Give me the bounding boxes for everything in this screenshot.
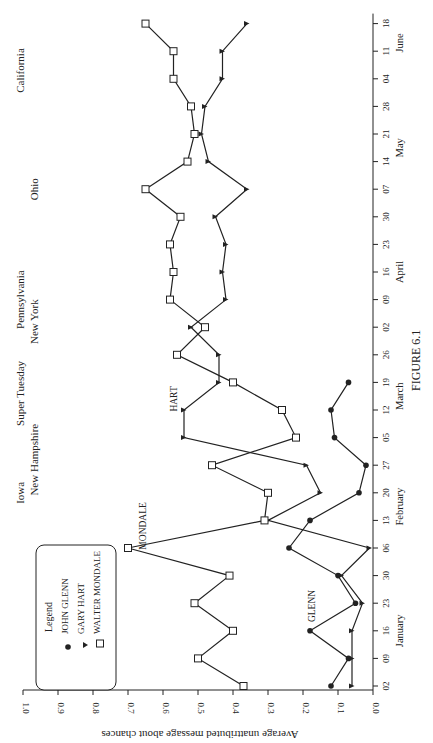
glenn-marker: [356, 490, 362, 496]
month-label: January: [394, 614, 405, 647]
value-tick-label: 0.4: [231, 702, 241, 714]
mondale-marker: [184, 158, 191, 165]
mondale-marker: [167, 241, 174, 248]
mondale-marker: [293, 434, 300, 441]
value-tick-label: 0.7: [126, 702, 136, 714]
value-tick-label: 0.9: [56, 702, 66, 714]
value-tick-label: 0.1: [336, 702, 346, 713]
event-label-iowa: Iowa: [14, 482, 26, 504]
legend-title: Legend: [43, 602, 54, 632]
annotation-glenn: GLENN: [307, 590, 317, 622]
hart-marker: [304, 463, 310, 468]
mondale-marker: [191, 600, 198, 607]
mondale-marker: [125, 545, 132, 552]
mondale-marker: [226, 572, 233, 579]
date-tick-label: 21: [381, 130, 391, 139]
date-tick-label: 12: [381, 406, 391, 415]
figure-caption-text: FIGURE 6.1: [409, 330, 423, 391]
date-tick-label: 27: [381, 460, 391, 470]
hart-marker: [244, 21, 250, 26]
date-tick-label: 20: [381, 488, 391, 498]
date-tick-label: 04: [381, 74, 391, 84]
mondale-marker: [191, 131, 198, 138]
event-label-super-tuesday: Super Tuesday: [14, 360, 26, 426]
hart-marker: [244, 187, 250, 192]
date-tick-label: 02: [381, 323, 391, 332]
date-tick-label: 30: [381, 212, 391, 222]
series-line-john-glenn: [289, 382, 366, 686]
series-line-walter-mondale: [128, 24, 296, 686]
series-line-gary-hart: [184, 24, 370, 686]
glenn-marker: [346, 380, 352, 386]
mondale-marker: [202, 324, 209, 331]
line-chart: 0209162330061320270512192602091623300714…: [0, 0, 433, 743]
date-tick-label: 05: [381, 433, 391, 443]
mondale-marker: [170, 75, 177, 82]
hart-marker: [367, 546, 373, 551]
date-tick-label: 23: [381, 239, 391, 249]
glenn-marker: [353, 600, 359, 606]
mondale-marker: [279, 407, 286, 414]
mondale-marker: [265, 489, 272, 496]
mondale-marker: [167, 296, 174, 303]
event-label-new-hampshire: New Hampshire: [28, 424, 40, 496]
mondale-marker: [174, 351, 181, 358]
month-label: June: [394, 33, 405, 53]
event-label-new-york: New York: [28, 299, 40, 344]
month-label: April: [394, 261, 405, 283]
value-tick-label: 0.6: [161, 702, 171, 714]
date-tick-label: 16: [381, 267, 391, 277]
mondale-marker: [142, 20, 149, 27]
mondale-marker: [240, 683, 247, 690]
mondale-marker: [261, 517, 268, 524]
glenn-marker: [307, 628, 313, 634]
mondale-marker: [195, 655, 202, 662]
legend-entry-gary-hart: GARY HART: [76, 583, 86, 634]
date-tick-label: 11: [381, 47, 391, 56]
mondale-marker: [170, 269, 177, 276]
glenn-marker: [307, 518, 313, 524]
event-label-california: California: [14, 48, 26, 93]
date-tick-label: 07: [381, 184, 391, 194]
value-tick-label: 0.5: [196, 702, 206, 714]
mondale-marker: [170, 48, 177, 55]
value-tick-label: 0.2: [301, 702, 311, 713]
chart-figure: 0209162330061320270512192602091623300714…: [0, 0, 433, 743]
legend-glenn-icon: [65, 644, 71, 650]
value-tick-label: 0.8: [91, 702, 101, 714]
month-label: March: [394, 382, 405, 410]
mondale-marker: [230, 627, 237, 634]
date-tick-label: 02: [381, 682, 391, 691]
event-label-pennsylvania: Pennsylvania: [14, 270, 26, 329]
legend-mondale-icon: [97, 640, 104, 647]
mondale-marker: [230, 379, 237, 386]
date-tick-label: 26: [381, 350, 391, 360]
value-tick-label: 0.0: [371, 702, 381, 714]
legend-entry-john-glenn: JOHN GLENN: [60, 578, 70, 634]
date-tick-label: 06: [381, 543, 391, 553]
date-tick-label: 16: [381, 626, 391, 636]
month-label: May: [394, 137, 405, 157]
glenn-marker: [363, 462, 369, 468]
value-tick-label: 0.3: [266, 702, 276, 714]
month-label: February: [394, 487, 405, 526]
date-tick-label: 14: [381, 157, 391, 167]
date-tick-label: 28: [381, 101, 391, 111]
mondale-marker: [209, 462, 216, 469]
date-tick-label: 09: [381, 295, 391, 305]
date-tick-label: 30: [381, 571, 391, 581]
date-tick-label: 23: [381, 598, 391, 608]
glenn-marker: [286, 545, 292, 551]
date-tick-label: 13: [381, 515, 391, 525]
date-tick-label: 19: [381, 377, 391, 387]
glenn-marker: [328, 683, 334, 689]
glenn-marker: [328, 407, 334, 413]
annotation-mondale: MONDALE: [138, 502, 148, 550]
mondale-marker: [188, 103, 195, 110]
annotation-hart: HART: [169, 386, 179, 411]
date-tick-label: 18: [381, 19, 391, 29]
legend-entry-walter-mondale: WALTER MONDALE: [92, 551, 102, 634]
mondale-marker: [142, 186, 149, 193]
event-label-ohio: Ohio: [28, 178, 40, 201]
mondale-marker: [177, 213, 184, 220]
